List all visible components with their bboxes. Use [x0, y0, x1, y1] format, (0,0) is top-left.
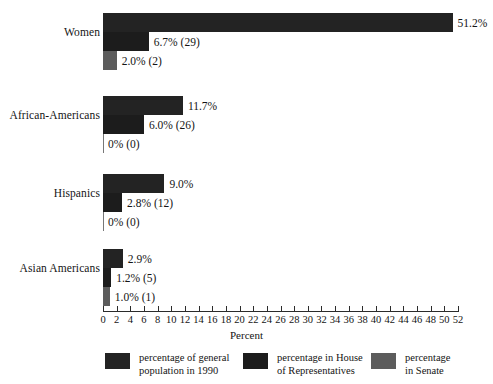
bar-group: Asian Americans2.9%1.2% (5)1.0% (1): [0, 249, 493, 306]
bar-group: Women51.2%6.7% (29)2.0% (2): [0, 13, 493, 70]
axis-tick-label: 36: [344, 314, 355, 326]
bar-value-label: 1.2% (5): [111, 271, 156, 284]
bar-value-label: 1.0% (1): [110, 290, 155, 303]
bar-value-label: 0% (0): [103, 215, 140, 228]
axis-tick: [362, 306, 363, 312]
axis-tick: [267, 306, 268, 312]
chart-legend: percentage of general population in 1990…: [0, 352, 493, 382]
axis-tick-label: 8: [155, 314, 160, 326]
axis-tick: [444, 306, 445, 312]
axis-tick-label: 12: [180, 314, 191, 326]
bar: [103, 13, 453, 32]
axis-tick-label: 28: [289, 314, 300, 326]
x-axis: 0246810121416182022242628303234363840424…: [103, 311, 459, 312]
axis-tick: [144, 306, 145, 312]
axis-tick-label: 22: [248, 314, 259, 326]
bar-value-label: 9.0%: [164, 177, 193, 190]
bar-chart: Women51.2%6.7% (29)2.0% (2)African-Ameri…: [0, 0, 493, 384]
axis-tick: [308, 306, 309, 312]
bar-row: 1.0% (1): [103, 287, 458, 306]
axis-tick: [103, 306, 104, 312]
bar: [103, 174, 164, 193]
bar: [103, 193, 122, 212]
axis-tick-label: 14: [193, 314, 204, 326]
axis-tick-label: 46: [412, 314, 423, 326]
axis-tick-label: 16: [207, 314, 218, 326]
bar-value-label: 2.8% (12): [122, 196, 173, 209]
axis-tick: [171, 306, 172, 312]
axis-tick: [226, 306, 227, 312]
axis-tick: [294, 306, 295, 312]
legend-swatch: [105, 353, 130, 369]
axis-tick: [417, 306, 418, 312]
axis-tick: [349, 306, 350, 312]
axis-tick: [117, 306, 118, 312]
axis-tick-label: 20: [234, 314, 245, 326]
axis-tick-label: 50: [439, 314, 450, 326]
axis-tick-label: 24: [262, 314, 273, 326]
axis-tick: [212, 306, 213, 312]
bar: [103, 249, 123, 268]
axis-tick-label: 0: [100, 314, 105, 326]
axis-tick: [253, 306, 254, 312]
bar-row: 9.0%: [103, 174, 458, 193]
category-label: African-Americans: [0, 109, 100, 122]
legend-label: percentage in Senate: [405, 352, 450, 377]
axis-tick-label: 44: [398, 314, 409, 326]
axis-tick: [240, 306, 241, 312]
axis-tick-label: 52: [453, 314, 464, 326]
axis-tick: [458, 306, 459, 312]
axis-tick: [130, 306, 131, 312]
category-label: Asian Americans: [0, 262, 100, 275]
axis-tick-label: 26: [275, 314, 286, 326]
bar-row: 6.7% (29): [103, 32, 458, 51]
bar-value-label: 6.0% (26): [144, 118, 195, 131]
bar-value-label: 51.2%: [453, 16, 488, 29]
legend-swatch: [371, 353, 396, 369]
bar-value-label: 2.0% (2): [117, 54, 162, 67]
legend-label: percentage in House of Representatives: [277, 352, 363, 377]
legend-item: percentage in House of Representatives: [243, 352, 363, 377]
legend-item: percentage in Senate: [371, 352, 450, 377]
bar-row: 2.0% (2): [103, 51, 458, 70]
bar-value-label: 0% (0): [103, 137, 140, 150]
axis-tick-label: 2: [114, 314, 119, 326]
bar-value-label: 2.9%: [123, 252, 152, 265]
axis-tick: [321, 306, 322, 312]
bar-row: 0% (0): [103, 212, 458, 231]
x-axis-title: Percent: [0, 329, 493, 342]
axis-tick-label: 48: [425, 314, 436, 326]
bar: [103, 287, 110, 306]
bar-value-label: 11.7%: [183, 99, 217, 112]
axis-tick: [403, 306, 404, 312]
bar-row: 2.8% (12): [103, 193, 458, 212]
bar-row: 2.9%: [103, 249, 458, 268]
bar-row: 1.2% (5): [103, 268, 458, 287]
legend-swatch: [243, 353, 268, 369]
axis-tick-label: 38: [357, 314, 368, 326]
axis-tick: [281, 306, 282, 312]
bar-value-label: 6.7% (29): [149, 35, 200, 48]
bar-row: 6.0% (26): [103, 115, 458, 134]
axis-tick-label: 40: [371, 314, 382, 326]
axis-tick: [335, 306, 336, 312]
bar: [103, 268, 111, 287]
bar-row: 51.2%: [103, 13, 458, 32]
axis-tick-label: 6: [141, 314, 146, 326]
axis-tick-label: 34: [330, 314, 341, 326]
bar: [103, 115, 144, 134]
bar-group: Hispanics9.0%2.8% (12)0% (0): [0, 174, 493, 231]
axis-tick: [158, 306, 159, 312]
axis-tick: [376, 306, 377, 312]
axis-tick-label: 42: [384, 314, 395, 326]
legend-label: percentage of general population in 1990: [139, 352, 229, 377]
axis-tick-label: 4: [128, 314, 133, 326]
axis-tick-label: 32: [316, 314, 327, 326]
category-label: Women: [0, 26, 100, 39]
category-label: Hispanics: [0, 187, 100, 200]
axis-tick: [431, 306, 432, 312]
bar: [103, 96, 183, 115]
bar-row: 0% (0): [103, 134, 458, 153]
axis-tick: [199, 306, 200, 312]
axis-tick: [390, 306, 391, 312]
